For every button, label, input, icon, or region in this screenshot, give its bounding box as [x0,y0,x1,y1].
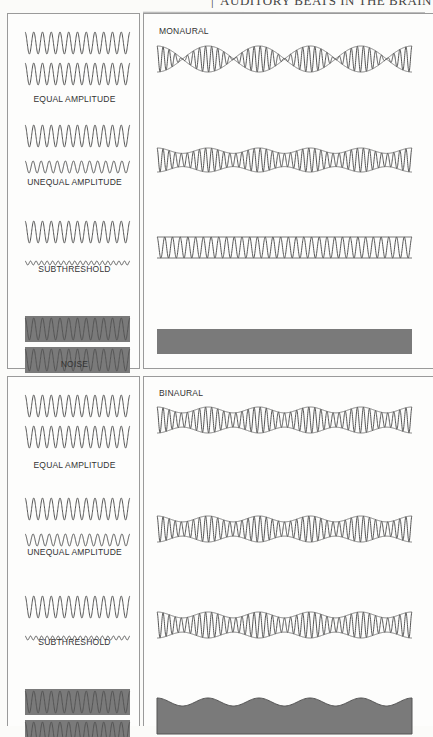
separator: | [211,0,214,8]
binaural-unequal-result-wave [157,514,412,544]
noise-label: NOISE [8,359,141,369]
monaural-subthreshold-result-wave [157,235,412,260]
running-head: |AUDITORY BEATS IN THE BRAIN [205,0,432,9]
monaural-result-panel: MONAURAL [143,13,433,369]
binaural-result-panel: BINAURAL [143,376,433,726]
subthreshold-input-waves [8,582,141,637]
monaural-equal-result-wave [157,44,412,74]
unequal-amplitude-input-waves [8,109,141,174]
unequal-amplitude-label: UNEQUAL AMPLITUDE [8,547,141,557]
equal-amplitude-input-waves [8,14,141,89]
monaural-noise-result-band [157,329,412,354]
subthreshold-label: SUBTHRESHOLD [8,637,141,647]
noise-input-waves [8,677,141,737]
binaural-title: BINAURAL [159,388,203,398]
monaural-unequal-result-wave [157,146,412,174]
equal-amplitude-label: EQUAL AMPLITUDE [8,460,141,470]
unequal-amplitude-label: UNEQUAL AMPLITUDE [8,177,141,187]
subthreshold-label: SUBTHRESHOLD [8,264,141,274]
subthreshold-input-waves [8,207,141,267]
monaural-inputs-panel: EQUAL AMPLITUDE UNEQUAL AMPLITUDE SUBTHR… [7,13,140,369]
binaural-subthreshold-result-wave [157,610,412,640]
binaural-equal-result-wave [157,405,412,435]
binaural-inputs-panel: EQUAL AMPLITUDE UNEQUAL AMPLITUDE SUBTHR… [7,376,140,726]
binaural-noise-result-band [157,694,412,734]
noise-input-waves [8,304,141,364]
monaural-title: MONAURAL [159,26,209,36]
unequal-amplitude-input-waves [8,484,141,544]
equal-amplitude-input-waves [8,377,141,452]
running-head-title: AUDITORY BEATS IN THE BRAIN [220,0,432,8]
equal-amplitude-label: EQUAL AMPLITUDE [8,94,141,104]
